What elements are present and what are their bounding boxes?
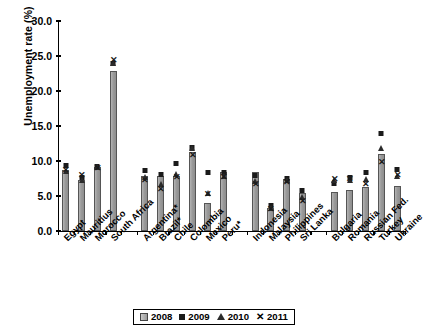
- marker-2009-mexico: [205, 170, 210, 175]
- y-tick-30.0: [56, 20, 61, 21]
- x-tick-5: [137, 231, 138, 235]
- bar-south-africa: [110, 71, 117, 231]
- legend-label-2008: 2008: [151, 312, 172, 322]
- x-tick-0: [58, 231, 59, 235]
- y-tick-10.0: [56, 160, 61, 161]
- marker-2009-turkey: [379, 131, 384, 136]
- bar-colombia: [189, 152, 196, 231]
- marker-2011-mexico: ✕: [204, 191, 211, 198]
- marker-2011-argentina: ✕: [141, 177, 148, 184]
- y-tick-label-30.0: 30.0: [32, 16, 52, 27]
- y-tick-20.0: [56, 90, 61, 91]
- marker-2011-romania: ✕: [346, 176, 353, 183]
- chart-legend: 2008 2009 2010 ✕ 2011: [133, 309, 295, 325]
- legend-label-2009: 2009: [188, 312, 209, 322]
- marker-2011-mauritius: ✕: [78, 172, 85, 179]
- x-tick-17: [326, 231, 327, 235]
- legend-item-2010: 2010: [217, 312, 249, 322]
- y-tick-label-15.0: 15.0: [32, 121, 52, 132]
- legend-item-2009: 2009: [179, 312, 209, 322]
- legend-label-2011: 2011: [267, 312, 288, 322]
- marker-2011-egypt: ✕: [62, 167, 69, 174]
- legend-item-2008: 2008: [140, 312, 172, 322]
- marker-2009-russian-fed: [363, 170, 368, 175]
- marker-2011-chile: ✕: [173, 174, 180, 181]
- legend-item-2011: ✕ 2011: [256, 312, 288, 322]
- y-tick-25.0: [56, 55, 61, 56]
- marker-2011-turkey: ✕: [378, 159, 385, 166]
- marker-2011-ukraine: ✕: [394, 172, 401, 179]
- marker-2010-turkey: [378, 145, 384, 151]
- bar-egypt: [62, 170, 69, 231]
- legend-bar-swatch-icon: [140, 313, 148, 321]
- marker-2011-russian-fed: ✕: [362, 181, 369, 188]
- marker-2011-indonesia: ✕: [252, 181, 259, 188]
- y-tick-label-20.0: 20.0: [32, 86, 52, 97]
- marker-2011-morocco: ✕: [94, 165, 101, 172]
- marker-2011-brazil: ✕: [157, 186, 164, 193]
- plot-area: 0.05.010.015.020.025.030.0 ✕✕✕✕✕✕✕✕✕✕✕✕✕…: [58, 21, 405, 231]
- y-tick-label-0.0: 0.0: [37, 226, 52, 237]
- x-tick-12: [247, 231, 248, 235]
- y-tick-15.0: [56, 125, 61, 126]
- legend-triangle-marker-icon: [217, 313, 225, 320]
- marker-2011-peru: ✕: [220, 174, 227, 181]
- y-tick-5.0: [56, 195, 61, 196]
- marker-2011-colombia: ✕: [189, 152, 196, 159]
- y-tick-label-5.0: 5.0: [37, 191, 52, 202]
- marker-2011-south-africa: ✕: [110, 57, 117, 64]
- marker-2011-bulgaria: ✕: [331, 176, 338, 183]
- marker-2011-sri-lanka: ✕: [299, 198, 306, 205]
- legend-cross-marker-icon: ✕: [256, 313, 264, 321]
- marker-2009-sri-lanka: [300, 188, 305, 193]
- marker-2011-philippines: ✕: [283, 179, 290, 186]
- legend-label-2010: 2010: [228, 312, 249, 322]
- marker-2009-brazil: [158, 172, 163, 177]
- marker-2009-argentina: [142, 168, 147, 173]
- legend-square-marker-icon: [179, 314, 185, 320]
- y-tick-label-25.0: 25.0: [32, 51, 52, 62]
- marker-2009-chile: [174, 161, 179, 166]
- y-tick-label-10.0: 10.0: [32, 156, 52, 167]
